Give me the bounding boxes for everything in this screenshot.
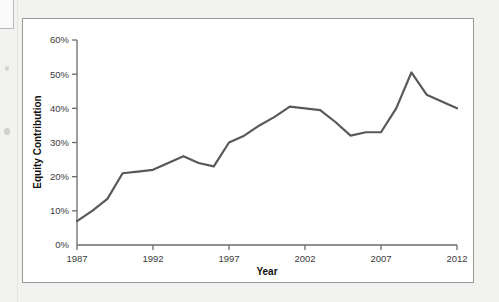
x-axis: 198719921997200220072012 bbox=[66, 245, 467, 264]
y-axis-tick-label: 30% bbox=[50, 137, 70, 148]
y-axis-tick-label: 10% bbox=[50, 205, 70, 216]
x-axis-title: Year bbox=[256, 266, 277, 277]
x-axis-tick-label: 1987 bbox=[66, 253, 87, 264]
x-axis-tick-label: 1992 bbox=[142, 253, 163, 264]
y-axis-tick-label: 0% bbox=[55, 239, 69, 250]
y-axis: 0%10%20%30%40%50%60% bbox=[50, 34, 77, 250]
x-axis-tick-label: 2002 bbox=[294, 253, 315, 264]
y-axis-tick-label: 40% bbox=[50, 103, 70, 114]
y-axis-tick-label: 20% bbox=[50, 171, 70, 182]
data-series-group bbox=[77, 72, 457, 221]
chart-svg: 0%10%20%30%40%50%60% 1987199219972002200… bbox=[0, 0, 499, 302]
y-axis-tick-label: 60% bbox=[50, 34, 70, 45]
data-line-equity-contribution bbox=[77, 72, 457, 221]
y-axis-title: Equity Contribution bbox=[32, 95, 43, 188]
x-axis-tick-label: 1997 bbox=[218, 253, 239, 264]
x-axis-tick-label: 2007 bbox=[370, 253, 391, 264]
line-chart: 0%10%20%30%40%50%60% 1987199219972002200… bbox=[0, 0, 499, 302]
x-axis-tick-label: 2012 bbox=[446, 253, 467, 264]
y-axis-tick-label: 50% bbox=[50, 69, 70, 80]
